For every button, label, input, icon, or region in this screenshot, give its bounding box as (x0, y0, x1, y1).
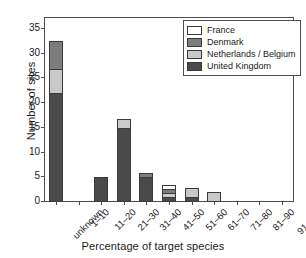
bar-stack[interactable] (139, 171, 153, 201)
y-axis-tick-mark (41, 77, 45, 78)
chart-figure: Number of sites 05101520253035unknown1–1… (0, 0, 306, 258)
x-axis-tick-mark (237, 201, 238, 205)
legend-swatch-icon (187, 38, 202, 47)
bar-stack[interactable] (207, 191, 221, 201)
x-axis-tick-mark (282, 201, 283, 205)
y-axis-tick-mark (41, 53, 45, 54)
legend-item-label: France (207, 25, 235, 35)
bar-stack[interactable] (162, 181, 176, 201)
y-axis-tick-mark (41, 152, 45, 153)
legend-item-label: Denmark (207, 37, 244, 47)
bar-stack[interactable] (185, 186, 199, 201)
y-axis-tick-mark (41, 28, 45, 29)
x-axis-tick-label: 61–70 (226, 207, 252, 233)
x-axis-tick-mark (169, 201, 170, 205)
legend-swatch-icon (187, 26, 202, 35)
bar-stack[interactable] (94, 176, 108, 201)
x-axis-tick-mark (56, 201, 57, 205)
bar-segment[interactable] (49, 69, 63, 94)
bar-segment[interactable] (94, 177, 108, 202)
legend-swatch-icon (187, 50, 202, 59)
bar-segment[interactable] (49, 41, 63, 71)
x-axis-tick-label: 51–60 (203, 207, 229, 233)
y-axis-tick-label: 5 (18, 171, 40, 181)
legend-item[interactable]: Denmark (187, 36, 296, 48)
bar-stack[interactable] (117, 117, 131, 201)
x-axis-tick-mark (146, 201, 147, 205)
legend-item-label: United Kingdom (207, 61, 271, 71)
x-axis-tick-label: 91–100 (295, 207, 306, 236)
x-axis-tick-mark (192, 201, 193, 205)
x-axis-tick-label: 11–20 (113, 207, 138, 232)
chart-legend: FranceDenmarkNetherlands / BelgiumUnited… (183, 20, 301, 76)
x-axis-tick-mark (79, 201, 80, 205)
x-axis-tick-label: 41–50 (181, 207, 207, 233)
x-axis-tick-mark (101, 201, 102, 205)
bar-segment[interactable] (49, 93, 63, 202)
x-axis-tick-mark (259, 201, 260, 205)
x-axis-tick-label: 81–90 (271, 207, 297, 233)
y-axis-tick-label: 15 (18, 122, 40, 132)
x-axis-tick-mark (214, 201, 215, 205)
legend-swatch-icon (187, 62, 202, 71)
x-axis-tick-label: 31–40 (158, 207, 184, 233)
x-axis-tick-mark (124, 201, 125, 205)
x-axis-tick-label: 21–30 (136, 207, 162, 233)
legend-item[interactable]: Netherlands / Belgium (187, 48, 296, 60)
y-axis-tick-label: 10 (18, 147, 40, 157)
x-axis-label: Percentage of target species (0, 240, 306, 252)
y-axis-tick-label: 20 (18, 97, 40, 107)
y-axis-tick-mark (41, 176, 45, 177)
legend-item[interactable]: France (187, 24, 296, 36)
bar-stack[interactable] (49, 38, 63, 201)
y-axis-tick-mark (41, 201, 45, 202)
y-axis-tick-mark (41, 102, 45, 103)
legend-item[interactable]: United Kingdom (187, 60, 296, 72)
y-axis-tick-label: 30 (18, 48, 40, 58)
bar-segment[interactable] (117, 128, 131, 202)
y-axis-tick-label: 25 (18, 72, 40, 82)
y-axis-tick-label: 0 (18, 196, 40, 206)
y-axis-tick-label: 35 (18, 23, 40, 33)
y-axis-tick-mark (41, 127, 45, 128)
bar-segment[interactable] (139, 177, 153, 202)
legend-item-label: Netherlands / Belgium (207, 49, 296, 59)
x-axis-tick-label: 71–80 (248, 207, 274, 233)
